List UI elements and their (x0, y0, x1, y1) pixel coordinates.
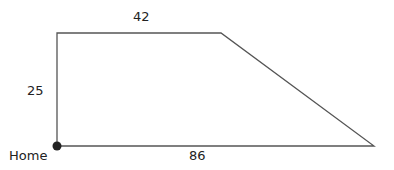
top-side-length-label: 42 (133, 10, 150, 23)
trapezoid-diagram (0, 0, 394, 170)
trapezoid-outline (57, 33, 374, 146)
bottom-side-length-label: 86 (189, 149, 206, 162)
left-side-length-label: 25 (27, 84, 44, 97)
home-label: Home (9, 149, 47, 162)
home-point-marker (53, 142, 62, 151)
